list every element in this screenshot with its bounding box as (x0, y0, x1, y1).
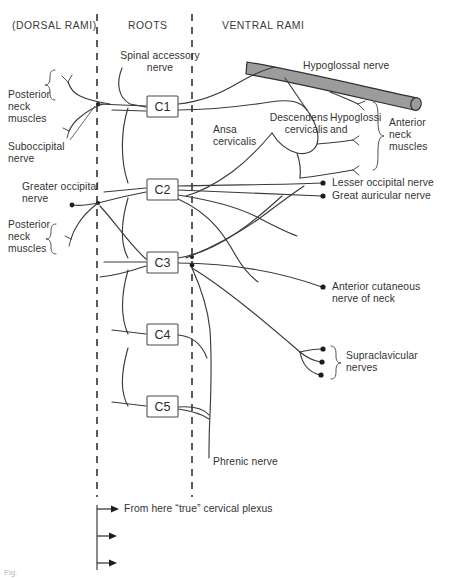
column-header-roots: ROOTS (128, 20, 167, 32)
anterior-muscle-twig-upper-a (353, 136, 359, 140)
root-chain-c3-c4 (122, 270, 128, 334)
label-hypoglossal-nerve: Hypoglossal nerve (303, 60, 389, 72)
cervical-plexus-figure: C1 C2 C3 C4 C5 (0, 0, 459, 578)
root-box-c4-label: C4 (155, 328, 171, 342)
anterior-muscle-twig-lower-a (353, 166, 359, 170)
supraclavicular-twig-3 (300, 352, 320, 375)
supraclavicular-endpoint-1 (320, 346, 325, 351)
column-header-dorsal-rami: (DORSAL RAMI) (12, 20, 97, 32)
label-ansa-cervicalis: Ansa cervicalis (213, 124, 256, 148)
root-box-c1-label: C1 (155, 100, 171, 114)
lesser-occipital-endpoint (320, 180, 325, 185)
label-anterior-neck-muscles: Anterior neck muscles (389, 117, 427, 154)
label-lesser-occipital-nerve: Lesser occipital nerve (332, 177, 434, 189)
c5-root-left-feed (112, 402, 146, 406)
dorsal-ramus-c1-upper-branch (68, 82, 110, 104)
label-descendens-cervicalis: Descendens cervicalis (268, 112, 328, 136)
dorsal-ramus-c1-upper-fork-a (62, 76, 68, 82)
label-spinal-accessory-nerve: Spinal accessory nerve (112, 50, 208, 74)
root-box-c3[interactable]: C3 (147, 252, 178, 273)
c3-to-supraclavicular (192, 268, 300, 352)
supraclavicular-endpoint-3 (318, 372, 323, 377)
supraclavicular-endpoint-2 (319, 359, 324, 364)
ansa-to-anterior-muscles-upper (317, 140, 353, 144)
footer-arrow-2 (97, 533, 117, 540)
label-anterior-cutaneous-nerve-of-neck: Anterior cutaneous nerve of neck (332, 281, 420, 305)
label-posterior-neck-muscles-upper: Posterior neck muscles (8, 89, 50, 126)
root-chain-c2-c3 (122, 198, 128, 258)
c3-to-great-auricular-upper (178, 196, 282, 258)
dorsal-ramus-c1-lower-fork-a (63, 128, 69, 131)
c1-root-left-feed-lower (112, 110, 146, 111)
anterior-muscle-twig-top-b (358, 104, 364, 110)
figure-caption: Fig. (4, 568, 17, 577)
bracket-supraclavicular-nerves (331, 346, 341, 379)
c2-to-ansa-descendens-cervicalis (178, 195, 297, 236)
anterior-cutaneous-endpoint (320, 284, 325, 289)
root-box-c2-label: C2 (155, 183, 171, 197)
label-phrenic-nerve: Phrenic nerve (213, 456, 278, 468)
root-box-c1[interactable]: C1 (147, 96, 178, 117)
footer-arrow-3 (97, 560, 117, 567)
c3-ansa-ascending (186, 186, 304, 258)
great-auricular-endpoint (320, 193, 325, 198)
supraclavicular-twig-1 (300, 349, 322, 352)
root-chain-c1-c2 (122, 108, 128, 183)
label-suboccipital-nerve: Suboccipital nerve (8, 141, 65, 165)
anterior-muscle-twig-lower-b (353, 170, 359, 175)
phrenic-nerve-path (192, 268, 211, 458)
c3-dorsal-ramus-crossing (100, 206, 146, 259)
dorsal-ramus-c2-muscle-fork-a (65, 236, 71, 239)
footer-arrow-1 (97, 506, 119, 513)
label-great-auricular-nerve: Great auricular nerve (332, 190, 431, 202)
label-true-cervical-plexus-note: From here “true” cervical plexus (124, 503, 273, 515)
root-box-c2[interactable]: C2 (147, 179, 178, 200)
dorsal-ramus-c2-muscle-branch (71, 203, 98, 239)
c2-root-left-feed (104, 188, 146, 192)
c1-root-left-feed (98, 104, 146, 106)
anterior-muscle-twig-upper-b (353, 140, 359, 145)
label-supraclavicular-nerves: Supraclavicular nerves (346, 350, 418, 374)
root-box-c5[interactable]: C5 (147, 396, 178, 417)
ansa-loop-lower-limb (297, 153, 300, 178)
root-box-c4[interactable]: C4 (147, 324, 178, 345)
label-greater-occipital-nerve: Greater occipital nerve (22, 181, 99, 205)
label-hypoglossi-and: Hypoglossi and (330, 112, 381, 136)
c2-to-lesser-occipital (178, 183, 322, 186)
root-box-c3-label: C3 (155, 256, 171, 270)
c1-to-ansa-descendens (178, 101, 307, 110)
root-box-c5-label: C5 (155, 400, 171, 414)
column-header-ventral-rami: VENTRAL RAMI (222, 20, 304, 32)
dorsal-ramus-c1-upper-fork-b (68, 75, 72, 82)
anterior-muscle-twig-top-a (358, 101, 365, 104)
c5-to-phrenic (178, 407, 209, 415)
label-posterior-neck-muscles-lower: Posterior neck muscles (8, 219, 50, 256)
root-chain-c4-c5 (122, 348, 128, 406)
c4-root-left-feed (112, 330, 146, 334)
dorsal-ramus-c1-lower-fork-b (67, 131, 69, 138)
dorsal-ramus-c2-muscle-fork-b (69, 239, 71, 246)
c3-dorsal-ramus-secondary (100, 266, 146, 277)
